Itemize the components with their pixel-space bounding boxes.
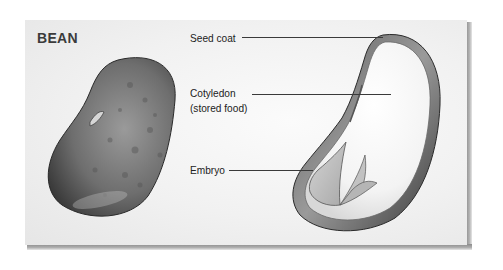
label-cotyledon-subtext: (stored food) <box>190 101 247 115</box>
leader-line-cotyledon <box>252 94 391 95</box>
leader-line-embryo <box>229 170 313 171</box>
leader-line-seed-coat <box>242 37 383 38</box>
whole-bean-figure <box>48 58 175 217</box>
diagram-title: BEAN <box>37 30 78 46</box>
label-embryo: Embryo <box>190 163 225 177</box>
label-seed-coat: Seed coat <box>190 31 236 45</box>
label-cotyledon: Cotyledon <box>190 86 236 100</box>
bean-cross-section-figure <box>293 34 440 230</box>
